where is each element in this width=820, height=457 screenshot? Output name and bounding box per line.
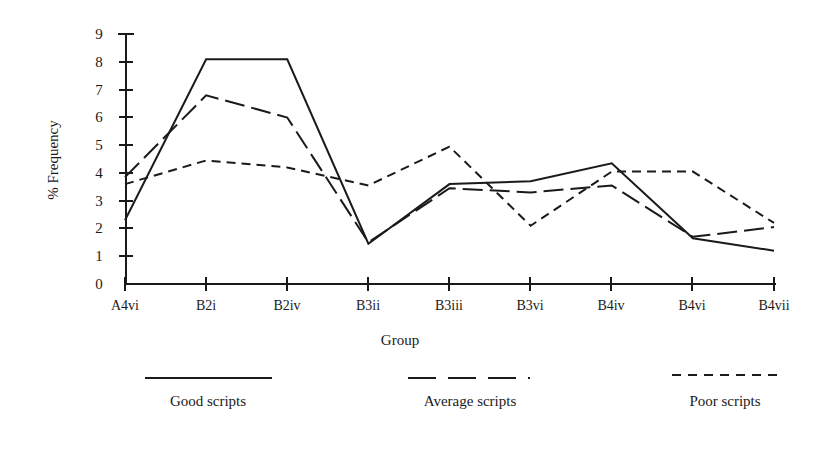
y-tick-label-6: 6 bbox=[95, 109, 103, 125]
series-line-good-scripts bbox=[125, 59, 774, 250]
x-axis-title: Group bbox=[381, 332, 419, 348]
x-tick-label-4: B3iii bbox=[435, 298, 463, 313]
legend-label-poor-scripts: Poor scripts bbox=[689, 393, 760, 409]
legend-label-good-scripts: Good scripts bbox=[170, 393, 246, 409]
y-tick-label-2: 2 bbox=[95, 220, 103, 236]
x-tick-label-5: B3vi bbox=[516, 298, 543, 313]
y-axis-title: % Frequency bbox=[45, 120, 61, 200]
chart-figure: 9 8 7 6 5 4 3 2 1 0 % Frequency A4v bbox=[0, 0, 820, 457]
x-tick-label-7: B4vi bbox=[678, 298, 705, 313]
y-tick-label-5: 5 bbox=[95, 137, 103, 153]
x-tick-labels: A4vi B2i B2iv B3ii B3iii B3vi B4iv B4vi … bbox=[111, 298, 790, 313]
y-tick-label-4: 4 bbox=[95, 165, 103, 181]
y-tick-label-0: 0 bbox=[95, 276, 103, 292]
series-line-poor-scripts bbox=[125, 147, 774, 226]
y-tick-label-9: 9 bbox=[95, 26, 103, 42]
series-line-average-scripts bbox=[125, 95, 774, 242]
line-chart: 9 8 7 6 5 4 3 2 1 0 % Frequency A4v bbox=[0, 0, 820, 457]
x-tick-label-0: A4vi bbox=[111, 298, 139, 313]
x-tick-label-2: B2iv bbox=[273, 298, 300, 313]
y-tick-label-7: 7 bbox=[95, 82, 103, 98]
y-tick-labels: 9 8 7 6 5 4 3 2 1 0 bbox=[95, 26, 103, 292]
x-tick-label-6: B4iv bbox=[597, 298, 624, 313]
chart-legend: Good scripts Average scripts Poor script… bbox=[145, 375, 778, 409]
x-tick-label-8: B4vii bbox=[758, 298, 789, 313]
x-tick-label-1: B2i bbox=[196, 298, 216, 313]
x-tick-label-3: B3ii bbox=[356, 298, 380, 313]
y-tick-label-8: 8 bbox=[95, 54, 103, 70]
y-tick-label-3: 3 bbox=[95, 193, 103, 209]
y-tick-label-1: 1 bbox=[95, 248, 103, 264]
legend-label-average-scripts: Average scripts bbox=[424, 393, 517, 409]
